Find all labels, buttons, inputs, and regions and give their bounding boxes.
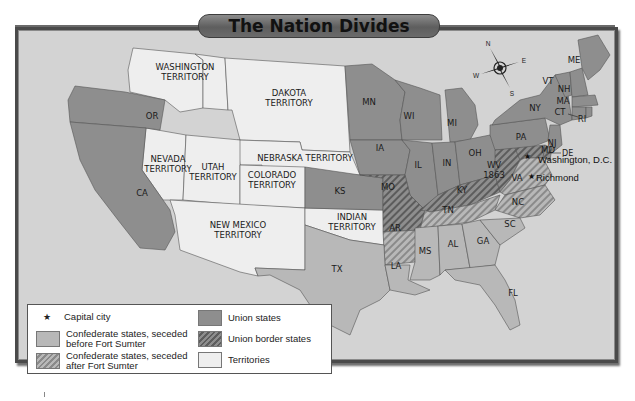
svg-text:LA: LA [391, 261, 402, 271]
swatch-territories [198, 352, 222, 368]
svg-text:NY: NY [529, 103, 541, 113]
svg-text:NEW MEXICOTERRITORY: NEW MEXICOTERRITORY [210, 220, 267, 240]
swatch-union [198, 310, 222, 326]
svg-text:KY: KY [457, 185, 468, 195]
svg-text:TX: TX [330, 264, 342, 274]
svg-text:W: W [473, 72, 480, 79]
compass-rose-icon: N S W E [473, 40, 527, 97]
svg-text:MI: MI [447, 118, 457, 128]
svg-text:COLORADOTERRITORY: COLORADOTERRITORY [247, 170, 296, 190]
svg-text:VT: VT [542, 76, 554, 86]
title-rule-left [15, 25, 200, 27]
svg-text:CA: CA [136, 188, 148, 198]
state-ar [383, 230, 420, 265]
state-ri [586, 107, 592, 118]
capital-star-washington: ★ [524, 152, 531, 161]
swatch-union-border [198, 331, 222, 347]
svg-text:AL: AL [448, 239, 459, 249]
star-icon: ★ [36, 312, 58, 322]
svg-text:KS: KS [335, 186, 346, 196]
map-title: The Nation Divides [228, 16, 409, 36]
title-rule-right [436, 25, 615, 27]
swatch-confederate-after [36, 353, 60, 369]
svg-text:VA: VA [511, 173, 522, 183]
svg-text:FL: FL [508, 288, 518, 298]
svg-text:TN: TN [441, 205, 454, 215]
legend-territories: Territories [198, 352, 270, 368]
legend-confederate-after: Confederate states, secededafter Fort Su… [36, 351, 187, 371]
svg-text:PA: PA [516, 132, 527, 142]
svg-text:E: E [522, 57, 527, 64]
city-richmond: Richmond [536, 172, 579, 183]
svg-text:RI: RI [578, 114, 586, 124]
svg-text:CT: CT [554, 107, 566, 117]
legend-union-border: Union border states [198, 331, 311, 347]
svg-text:MN: MN [362, 97, 376, 107]
svg-text:MS: MS [419, 246, 432, 256]
svg-text:IN: IN [443, 158, 452, 168]
state-mi [445, 88, 478, 142]
svg-text:MA: MA [556, 96, 569, 106]
legend-confederate-before: Confederate states, secededbefore Fort S… [36, 329, 187, 349]
map-title-banner: The Nation Divides [198, 14, 440, 38]
svg-text:NC: NC [512, 197, 524, 207]
svg-text:NEBRASKA TERRITORY: NEBRASKA TERRITORY [257, 153, 353, 163]
svg-text:GA: GA [477, 236, 490, 246]
svg-text:OH: OH [468, 148, 481, 158]
state-ma [572, 95, 598, 107]
svg-text:SC: SC [504, 219, 515, 229]
svg-text:WASHINGTONTERRITORY: WASHINGTONTERRITORY [156, 62, 215, 82]
svg-text:S: S [510, 90, 515, 97]
svg-text:NH: NH [558, 84, 571, 94]
svg-text:AR: AR [389, 223, 401, 233]
svg-text:MO: MO [381, 182, 395, 192]
svg-text:WI: WI [404, 111, 415, 121]
legend-union: Union states [198, 310, 281, 326]
legend-capital: ★ Capital city [36, 312, 110, 322]
svg-text:NEVADATERRITORY: NEVADATERRITORY [143, 154, 192, 174]
svg-text:IL: IL [414, 160, 422, 170]
svg-text:OR: OR [146, 111, 159, 121]
capital-star-richmond: ★ [528, 172, 535, 181]
swatch-confederate-before [36, 331, 60, 347]
city-washington-dc: Washington, D.C. [538, 154, 612, 165]
svg-text:ME: ME [568, 55, 581, 65]
svg-text:DAKOTATERRITORY: DAKOTATERRITORY [264, 88, 313, 108]
map-legend: ★ Capital city Confederate states, seced… [27, 304, 332, 374]
svg-text:N: N [486, 40, 491, 47]
svg-text:IA: IA [376, 143, 385, 153]
page-tick-mark [44, 392, 45, 397]
